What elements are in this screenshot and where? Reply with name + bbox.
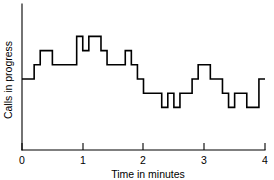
- step-line-calls-in-progress: [22, 36, 265, 107]
- x-tick-label-1: 1: [80, 154, 86, 166]
- x-tick-label-2: 2: [140, 154, 146, 166]
- x-axis-ticks: [22, 143, 265, 150]
- x-axis-tick-labels: 0 1 2 3 4: [19, 154, 268, 166]
- chart-figure: 0 1 2 3 4 Time in minutes Calls in progr…: [0, 0, 274, 180]
- x-axis-title: Time in minutes: [111, 168, 185, 180]
- x-tick-label-0: 0: [19, 154, 25, 166]
- y-axis-title: Calls in progress: [2, 41, 14, 119]
- chart-canvas: 0 1 2 3 4 Time in minutes Calls in progr…: [0, 0, 274, 180]
- x-tick-label-3: 3: [201, 154, 207, 166]
- x-tick-label-4: 4: [262, 154, 268, 166]
